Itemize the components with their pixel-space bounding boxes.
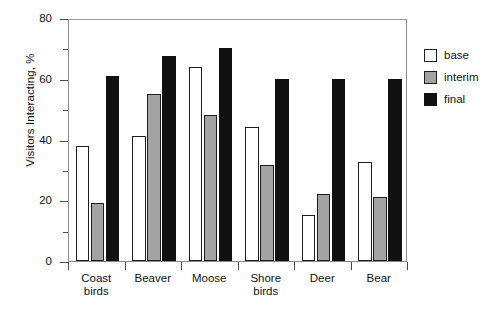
- bar-final: [219, 48, 233, 261]
- legend-item-interim: interim: [424, 66, 492, 88]
- x-axis-category-label: Deer: [294, 272, 351, 285]
- y-axis-tick-label: 0: [12, 255, 52, 267]
- x-axis-category-line: Moose: [181, 272, 238, 285]
- y-axis-major-tick: [60, 201, 68, 202]
- bar-base: [132, 136, 146, 261]
- bar-base: [76, 146, 90, 261]
- bar-interim: [260, 165, 274, 261]
- x-axis-category-line: Coast: [68, 272, 125, 285]
- bar-group: [69, 20, 126, 261]
- x-axis-tick: [68, 262, 69, 270]
- legend-swatch-base: [424, 49, 437, 62]
- chart-legend: baseinterimfinal: [424, 44, 492, 110]
- x-axis-tick: [125, 262, 126, 270]
- y-axis-major-tick: [60, 262, 68, 263]
- bar-chart-figure: Visitors Interacting, % 020406080 Coastb…: [0, 0, 495, 310]
- bar-base: [358, 162, 372, 261]
- x-axis-category-line: Beaver: [125, 272, 182, 285]
- bar-base: [302, 215, 316, 261]
- bar-final: [332, 79, 346, 261]
- x-axis-category-label: Coastbirds: [68, 272, 125, 298]
- x-axis-category-line: birds: [68, 285, 125, 298]
- bar-group: [126, 20, 183, 261]
- x-axis-category-label: Beaver: [125, 272, 182, 285]
- legend-label: base: [444, 49, 469, 61]
- bar-base: [245, 127, 259, 261]
- y-axis-tick-label: 80: [12, 12, 52, 24]
- x-axis-tick: [181, 262, 182, 270]
- x-axis-category-line: Deer: [294, 272, 351, 285]
- x-axis-category-line: Shore: [238, 272, 295, 285]
- bar-final: [106, 76, 120, 261]
- bar-final: [388, 79, 402, 261]
- bar-group: [239, 20, 296, 261]
- y-axis-major-tick: [60, 19, 68, 20]
- bar-interim: [317, 194, 331, 261]
- y-axis-major-tick: [60, 80, 68, 81]
- bar-group: [352, 20, 409, 261]
- x-axis-category-label: Moose: [181, 272, 238, 285]
- bar-interim: [91, 203, 105, 261]
- x-axis-tick: [238, 262, 239, 270]
- legend-label: final: [444, 93, 465, 105]
- plot-area: [68, 19, 407, 262]
- bar-interim: [373, 197, 387, 261]
- x-axis-category-line: Bear: [351, 272, 408, 285]
- y-axis-major-tick: [60, 141, 68, 142]
- legend-item-final: final: [424, 88, 492, 110]
- x-axis-category-line: birds: [238, 285, 295, 298]
- bar-interim: [204, 115, 218, 261]
- x-axis-category-label: Bear: [351, 272, 408, 285]
- x-axis-tick: [407, 262, 408, 270]
- bar-final: [275, 79, 289, 261]
- bar-interim: [147, 94, 161, 261]
- y-axis-tick-label: 20: [12, 194, 52, 206]
- x-axis-category-label: Shorebirds: [238, 272, 295, 298]
- y-axis-title: Visitors Interacting, %: [24, 10, 36, 210]
- bar-base: [189, 67, 203, 261]
- bar-group: [182, 20, 239, 261]
- y-axis-tick-label: 60: [12, 73, 52, 85]
- bar-group: [295, 20, 352, 261]
- legend-swatch-final: [424, 93, 437, 106]
- x-axis-tick: [294, 262, 295, 270]
- x-axis-tick: [351, 262, 352, 270]
- legend-item-base: base: [424, 44, 492, 66]
- legend-swatch-interim: [424, 71, 437, 84]
- legend-label: interim: [444, 71, 479, 83]
- y-axis-tick-label: 40: [12, 134, 52, 146]
- bar-final: [162, 56, 176, 261]
- bar-series-container: [69, 20, 406, 261]
